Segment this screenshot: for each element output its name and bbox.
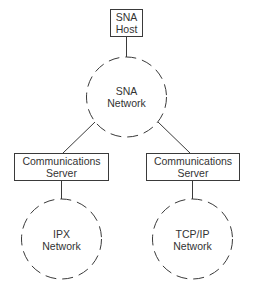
- sna-network-label-line2: Network: [107, 97, 146, 109]
- tcpip-network-node: TCP/IP Network: [153, 199, 233, 279]
- ipx-network-label-line2: Network: [42, 240, 81, 252]
- right-server-label-line1: Communications: [154, 155, 232, 167]
- left-server-label-line1: Communications: [22, 155, 100, 167]
- left-communications-server-node: Communications Server: [15, 154, 109, 181]
- sna-host-label-line1: SNA: [116, 11, 138, 23]
- ipx-network-node: IPX Network: [22, 199, 102, 279]
- sna-network-label-line1: SNA: [116, 85, 138, 97]
- edge-sna-to-right-server: [158, 122, 190, 153]
- sna-host-node: SNA Host: [111, 10, 143, 37]
- sna-network-node: SNA Network: [87, 57, 167, 137]
- left-server-label-line2: Server: [46, 167, 77, 179]
- network-diagram: SNA Host SNA Network Communications Serv…: [0, 0, 254, 294]
- right-server-label-line2: Server: [178, 167, 209, 179]
- ipx-network-label-line1: IPX: [53, 228, 70, 240]
- sna-host-label-line2: Host: [116, 23, 138, 35]
- tcpip-network-label-line2: Network: [173, 240, 212, 252]
- tcpip-network-label-line1: TCP/IP: [176, 228, 210, 240]
- edge-sna-to-left-server: [63, 122, 95, 153]
- right-communications-server-node: Communications Server: [147, 154, 240, 181]
